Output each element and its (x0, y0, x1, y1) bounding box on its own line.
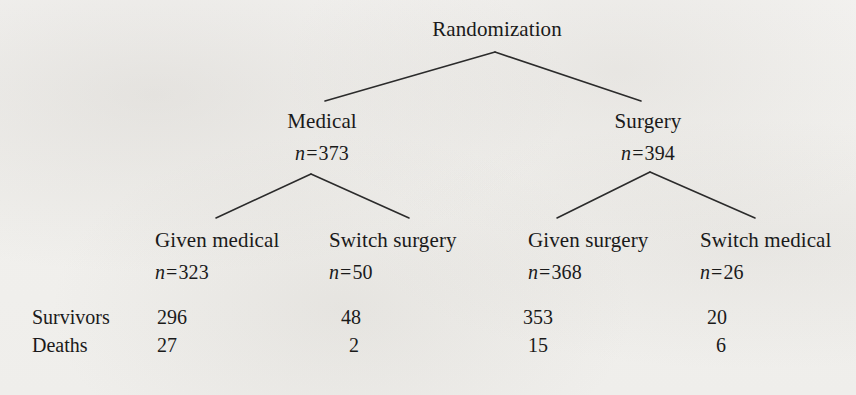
cell-survivors-switch-surgery: 48 (341, 306, 361, 329)
edge-surgery-to-given-surgery (557, 172, 650, 218)
n-symbol: n (155, 261, 165, 283)
n-value: 394 (645, 142, 675, 164)
equals-symbol: = (711, 261, 722, 283)
node-surgery: Surgery n=394 (615, 108, 682, 166)
equals-symbol: = (340, 261, 351, 283)
diagram-canvas: Randomization Medical n=373 Surgery n=39… (0, 0, 856, 395)
edge-root-to-surgery (495, 52, 641, 101)
equals-symbol: = (166, 261, 177, 283)
node-switch-medical: Switch medical n=26 (700, 227, 831, 285)
n-symbol: n (528, 261, 538, 283)
node-switch-medical-label: Switch medical (700, 227, 831, 254)
equals-symbol: = (632, 142, 643, 164)
node-randomization: Randomization (432, 16, 562, 43)
cell-survivors-given-medical: 296 (157, 306, 187, 329)
n-value: 50 (353, 261, 373, 283)
node-randomization-label: Randomization (432, 16, 562, 43)
n-symbol: n (621, 142, 631, 164)
node-medical: Medical n=373 (287, 108, 357, 166)
cell-deaths-switch-surgery: 2 (349, 334, 359, 357)
node-given-surgery: Given surgery n=368 (528, 227, 648, 285)
tree-connector-lines (0, 0, 856, 395)
edge-medical-to-switch-surgery (311, 174, 409, 218)
n-value: 323 (179, 261, 209, 283)
edge-surgery-to-switch-medical (650, 172, 755, 218)
n-symbol: n (700, 261, 710, 283)
equals-symbol: = (539, 261, 550, 283)
cell-survivors-switch-medical: 20 (707, 306, 727, 329)
node-surgery-label: Surgery (615, 108, 682, 135)
edge-root-to-medical (325, 52, 495, 101)
edge-medical-to-given-medical (216, 174, 311, 218)
row-label-survivors: Survivors (32, 306, 110, 329)
node-switch-medical-count: n=26 (700, 259, 831, 285)
node-given-medical: Given medical n=323 (155, 227, 279, 285)
node-switch-surgery-count: n=50 (329, 259, 457, 285)
node-given-medical-label: Given medical (155, 227, 279, 254)
node-switch-surgery: Switch surgery n=50 (329, 227, 457, 285)
n-symbol: n (329, 261, 339, 283)
node-medical-count: n=373 (287, 140, 357, 166)
n-symbol: n (295, 142, 305, 164)
n-value: 368 (552, 261, 582, 283)
cell-deaths-switch-medical: 6 (716, 334, 726, 357)
node-given-surgery-label: Given surgery (528, 227, 648, 254)
n-value: 373 (319, 142, 349, 164)
node-given-surgery-count: n=368 (528, 259, 648, 285)
node-surgery-count: n=394 (615, 140, 682, 166)
equals-symbol: = (306, 142, 317, 164)
node-given-medical-count: n=323 (155, 259, 279, 285)
cell-deaths-given-medical: 27 (157, 334, 177, 357)
node-medical-label: Medical (287, 108, 357, 135)
cell-deaths-given-surgery: 15 (528, 334, 548, 357)
cell-survivors-given-surgery: 353 (523, 306, 553, 329)
node-switch-surgery-label: Switch surgery (329, 227, 457, 254)
row-label-deaths: Deaths (32, 334, 88, 357)
n-value: 26 (724, 261, 744, 283)
